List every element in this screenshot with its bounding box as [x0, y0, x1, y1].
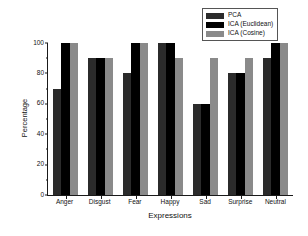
legend-item: ICA (Euclidean) — [206, 20, 273, 29]
bar-group — [48, 43, 83, 195]
bar-group — [258, 43, 293, 195]
x-tick-label: Surprise — [223, 198, 258, 205]
plot-area: 020406080100 — [47, 43, 293, 196]
legend-label: ICA (Cosine) — [228, 30, 265, 37]
bar — [105, 58, 114, 195]
bar — [193, 104, 202, 195]
legend-item: PCA — [206, 11, 273, 20]
x-axis-tick-labels: AngerDisgustFearHappySadSurpriseNeutral — [47, 198, 293, 205]
bar — [123, 73, 132, 195]
bar — [70, 43, 79, 195]
bar — [236, 73, 245, 195]
bar — [158, 43, 167, 195]
y-tick-label: 80 — [37, 70, 44, 77]
bar-groups — [48, 43, 293, 195]
bar — [245, 58, 254, 195]
bar — [228, 73, 237, 195]
y-tick-label: 100 — [33, 40, 44, 47]
legend-label: PCA — [228, 12, 241, 19]
legend-swatch — [206, 22, 224, 28]
bar-chart-figure: Percentage 020406080100 AngerDisgustFear… — [0, 0, 308, 236]
bar — [263, 58, 272, 195]
legend-swatch — [206, 31, 224, 37]
bar-group — [223, 43, 258, 195]
bar — [175, 58, 184, 195]
bar-group — [83, 43, 118, 195]
bar — [271, 43, 280, 195]
bar-group — [118, 43, 153, 195]
legend-swatch — [206, 13, 224, 19]
bar — [88, 58, 97, 195]
legend: PCAICA (Euclidean)ICA (Cosine) — [202, 8, 278, 41]
legend-item: ICA (Cosine) — [206, 29, 273, 38]
x-tick-label: Disgust — [82, 198, 117, 205]
bar — [96, 58, 105, 195]
bar — [53, 89, 62, 195]
bar-group — [153, 43, 188, 195]
bar — [210, 58, 219, 195]
x-tick-label: Anger — [47, 198, 82, 205]
x-axis-title: Expressions — [47, 211, 293, 220]
y-tick-label: 40 — [37, 131, 44, 138]
bar — [140, 43, 149, 195]
bar-group — [188, 43, 223, 195]
bar — [166, 43, 175, 195]
bar — [131, 43, 140, 195]
x-tick-label: Fear — [117, 198, 152, 205]
bar — [61, 43, 70, 195]
y-axis-title: Percentage — [20, 99, 29, 137]
x-tick-label: Happy — [152, 198, 187, 205]
y-tick-label: 60 — [37, 101, 44, 108]
y-tick-label: 0 — [40, 192, 44, 199]
bar — [280, 43, 289, 195]
bar — [201, 104, 210, 195]
y-tick-label: 20 — [37, 161, 44, 168]
x-tick-label: Neutral — [258, 198, 293, 205]
x-tick-label: Sad — [188, 198, 223, 205]
legend-label: ICA (Euclidean) — [228, 21, 273, 28]
